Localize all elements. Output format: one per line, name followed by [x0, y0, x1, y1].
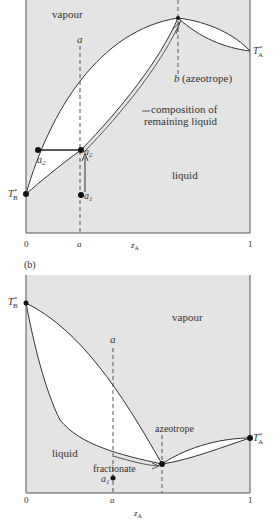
- label-TB: T*B: [8, 187, 18, 202]
- label-liquid: liquid: [52, 447, 78, 459]
- x-tick-a: a: [77, 239, 82, 249]
- label-vapour: vapour: [52, 8, 83, 20]
- label-composition: composition of: [151, 103, 218, 115]
- phase-diagrams: vapour liquid a b (azeotrope) compositio…: [0, 0, 277, 526]
- x-tick-a: a: [110, 495, 115, 505]
- point-TB: [24, 301, 29, 306]
- x-tick-0: 0: [24, 495, 29, 505]
- x-tick-1: 1: [248, 239, 253, 249]
- x-axis-label: zA: [130, 240, 140, 251]
- label-TA: T*A: [253, 44, 263, 59]
- panel-b-label: (b): [24, 259, 36, 271]
- label-b: b: [174, 72, 180, 84]
- point-azeotrope: [159, 461, 165, 467]
- panel-b: (b) vapour liquid a azeotrope fra: [8, 259, 263, 519]
- label-a-top: a: [77, 33, 83, 45]
- panel-a: vapour liquid a b (azeotrope) compositio…: [8, 0, 263, 251]
- label-fractionate: fractionate: [93, 463, 136, 474]
- label-vapour: vapour: [172, 311, 203, 323]
- x-axis-label: zA: [133, 508, 143, 519]
- x-tick-0: 0: [24, 239, 29, 249]
- label-a-top: a: [110, 333, 116, 345]
- x-tick-1: 1: [248, 495, 253, 505]
- label-liquid: liquid: [172, 169, 198, 181]
- point-a2-left: [35, 147, 41, 153]
- point-azeotrope: [176, 16, 180, 20]
- point-TB: [23, 191, 29, 197]
- label-TA: T*A: [253, 431, 263, 446]
- label-TB: T*B: [8, 295, 18, 310]
- label-remaining-liquid: remaining liquid: [144, 115, 218, 127]
- label-azeotrope: azeotrope: [155, 423, 194, 434]
- point-a1: [111, 476, 116, 481]
- label-azeotrope: (azeotrope): [182, 72, 232, 85]
